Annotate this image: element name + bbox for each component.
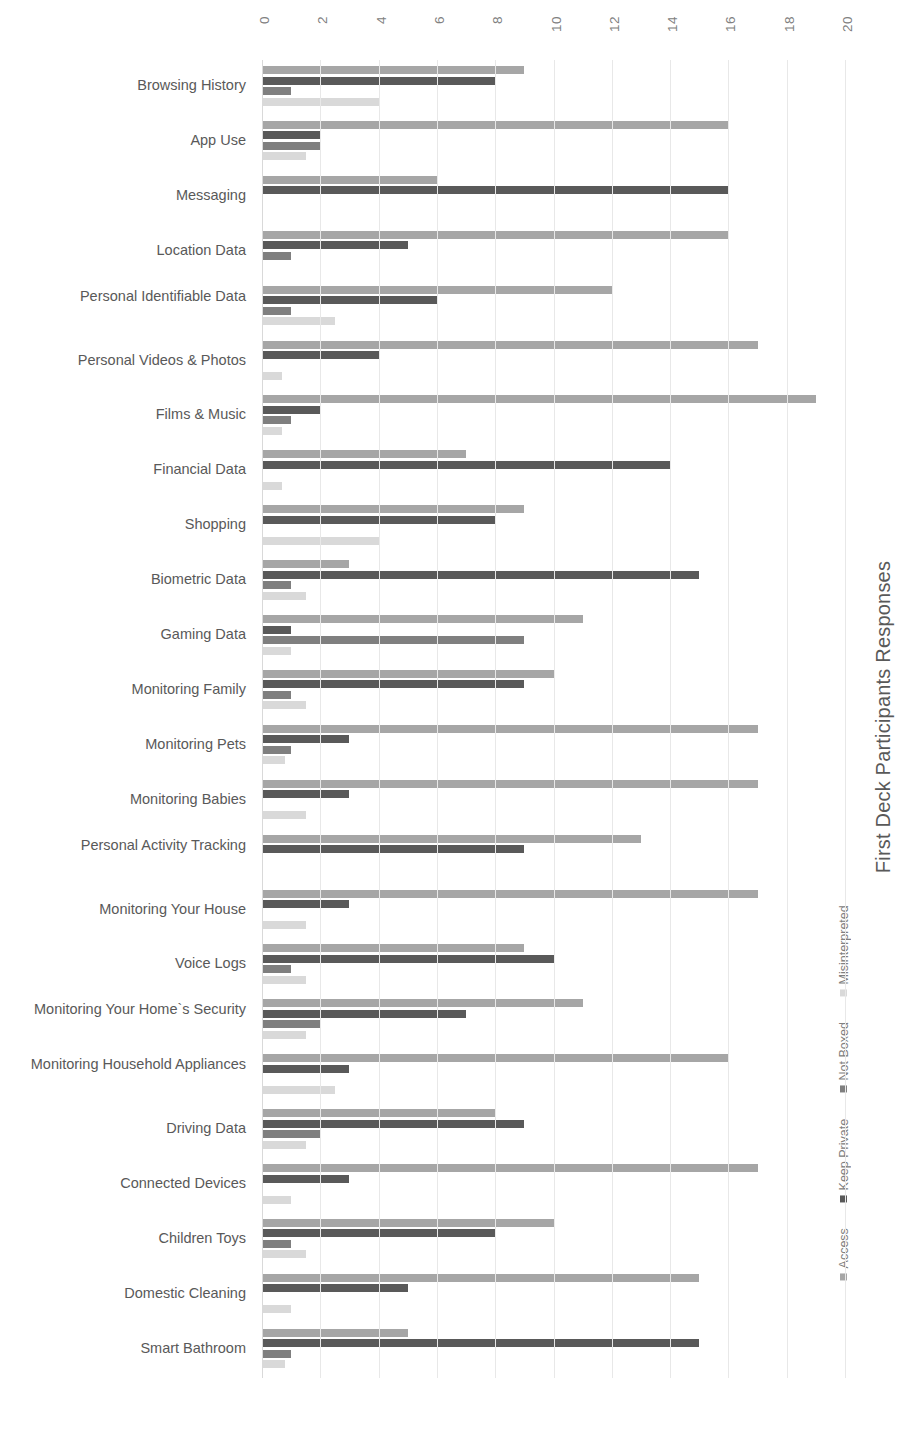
bar-access <box>262 1329 408 1337</box>
bar-misinterpreted <box>262 976 306 984</box>
category-label: Children Toys <box>0 1230 246 1247</box>
bar-keep-private <box>262 296 437 304</box>
category-label: Messaging <box>0 187 246 204</box>
legend-item-misinterpreted[interactable]: Misinterpreted <box>837 905 851 996</box>
bar-keep-private <box>262 1010 466 1018</box>
bar-misinterpreted <box>262 811 306 819</box>
bar-access <box>262 615 583 623</box>
gridline-8 <box>495 60 496 1378</box>
bar-not-boxed <box>262 691 291 699</box>
bar-group <box>262 66 524 108</box>
bar-group <box>262 395 816 437</box>
x-tick-18: 18 <box>782 16 797 32</box>
bar-access <box>262 670 554 678</box>
gridline-18 <box>787 60 788 1378</box>
bar-keep-private <box>262 406 320 414</box>
category-label: Personal Videos & Photos <box>0 352 246 369</box>
bar-keep-private <box>262 1120 524 1128</box>
bar-misinterpreted <box>262 592 306 600</box>
bar-access <box>262 1219 554 1227</box>
x-tick-0: 0 <box>257 16 272 24</box>
bar-not-boxed <box>262 636 524 644</box>
x-tick-12: 12 <box>607 16 622 32</box>
bar-keep-private <box>262 626 291 634</box>
bar-keep-private <box>262 790 349 798</box>
legend-label: Keep Private <box>837 1119 851 1191</box>
bar-not-boxed <box>262 965 291 973</box>
bar-access <box>262 66 524 74</box>
x-tick-10: 10 <box>549 16 564 32</box>
x-tick-14: 14 <box>665 16 680 32</box>
bar-access <box>262 999 583 1007</box>
category-label: Shopping <box>0 516 246 533</box>
bar-not-boxed <box>262 142 320 150</box>
bar-not-boxed <box>262 746 291 754</box>
x-tick-20: 20 <box>840 16 855 32</box>
bar-keep-private <box>262 131 320 139</box>
bar-group <box>262 341 758 383</box>
bar-group <box>262 505 524 547</box>
bar-keep-private <box>262 845 524 853</box>
bar-misinterpreted <box>262 1031 306 1039</box>
bar-misinterpreted <box>262 1250 306 1258</box>
bar-misinterpreted <box>262 317 335 325</box>
bar-keep-private <box>262 461 670 469</box>
gridline-0 <box>262 60 263 1378</box>
chart-legend: AccessKeep PrivateNot BoxedMisinterprete… <box>837 905 851 1280</box>
bar-group <box>262 1274 699 1316</box>
bar-not-boxed <box>262 1240 291 1248</box>
category-label: Browsing History <box>0 77 246 94</box>
category-label: Biometric Data <box>0 571 246 588</box>
legend-swatch-icon <box>841 1086 848 1093</box>
bar-access <box>262 560 349 568</box>
bar-misinterpreted <box>262 372 282 380</box>
gridline-12 <box>612 60 613 1378</box>
legend-swatch-icon <box>841 1195 848 1202</box>
category-label: Monitoring Family <box>0 681 246 698</box>
legend-swatch-icon <box>841 1273 848 1280</box>
legend-item-keep-private[interactable]: Keep Private <box>837 1119 851 1203</box>
bar-access <box>262 1164 758 1172</box>
category-label: Voice Logs <box>0 955 246 972</box>
category-label: Monitoring Household Appliances <box>0 1056 246 1073</box>
bar-keep-private <box>262 1339 699 1347</box>
category-label: Personal Identifiable Data <box>0 288 246 305</box>
legend-label: Misinterpreted <box>837 905 851 984</box>
bar-access <box>262 1274 699 1282</box>
bar-misinterpreted <box>262 921 306 929</box>
x-tick-6: 6 <box>432 16 447 24</box>
bar-group <box>262 780 758 822</box>
bar-group <box>262 450 670 492</box>
bar-misinterpreted <box>262 427 282 435</box>
bar-misinterpreted <box>262 1141 306 1149</box>
bar-misinterpreted <box>262 701 306 709</box>
bar-access <box>262 505 524 513</box>
bar-chart: 02468101214161820 Browsing HistoryApp Us… <box>0 0 909 1433</box>
bar-misinterpreted <box>262 1360 285 1368</box>
legend-item-not-boxed[interactable]: Not Boxed <box>837 1022 851 1092</box>
bar-misinterpreted <box>262 482 282 490</box>
category-label: Films & Music <box>0 406 246 423</box>
category-label: Personal Activity Tracking <box>0 837 246 854</box>
bar-misinterpreted <box>262 756 285 764</box>
bar-keep-private <box>262 900 349 908</box>
bar-group <box>262 999 583 1041</box>
gridline-16 <box>728 60 729 1378</box>
gridline-20 <box>845 60 846 1378</box>
bar-not-boxed <box>262 87 291 95</box>
bar-misinterpreted <box>262 152 306 160</box>
bar-group <box>262 835 641 877</box>
bar-access <box>262 395 816 403</box>
bar-not-boxed <box>262 581 291 589</box>
legend-item-access[interactable]: Access <box>837 1228 851 1280</box>
legend-label: Not Boxed <box>837 1022 851 1080</box>
bar-access <box>262 944 524 952</box>
bar-access <box>262 725 758 733</box>
bar-group <box>262 560 699 602</box>
bar-access <box>262 341 758 349</box>
bar-keep-private <box>262 1065 349 1073</box>
category-label: Monitoring Your House <box>0 901 246 918</box>
bar-not-boxed <box>262 416 291 424</box>
bar-keep-private <box>262 571 699 579</box>
x-tick-8: 8 <box>490 16 505 24</box>
